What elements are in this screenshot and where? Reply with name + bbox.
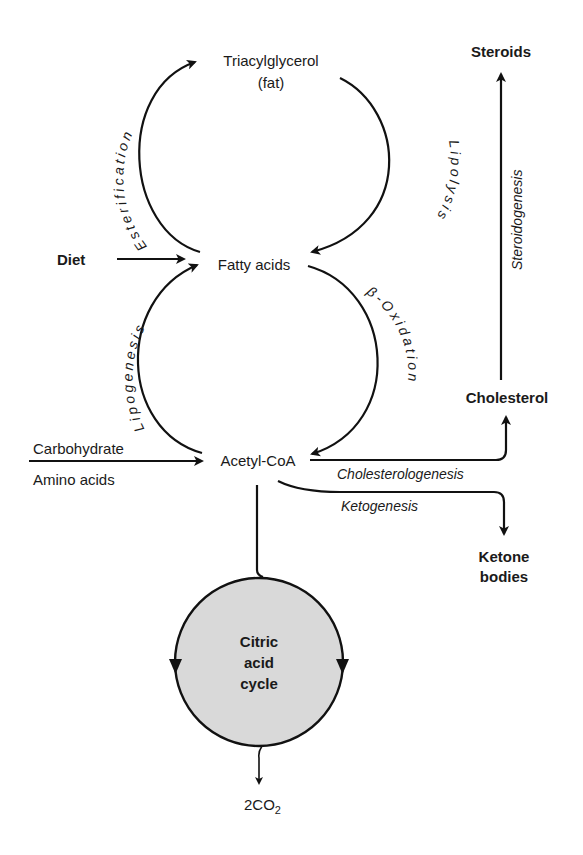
metabolism-diagram: Esterification Lipolysis Lipogenesis β-O… — [0, 0, 583, 855]
amino-acids-label: Amino acids — [33, 471, 115, 488]
ketone-bodies-label: bodies — [480, 568, 528, 585]
co2-arrow — [259, 746, 262, 783]
cycle-label: cycle — [240, 675, 278, 692]
lipolysis-arrow — [312, 78, 389, 252]
cholesterologenesis-label: Cholesterologenesis — [337, 466, 464, 482]
triacylglycerol-label: Triacylglycerol — [223, 52, 318, 69]
co2-subscript: 2 — [275, 804, 281, 816]
cholesterologenesis-arrow — [310, 417, 506, 460]
lipolysis-label: Lipolysis — [433, 139, 464, 225]
lipogenesis-label: Lipogenesis — [119, 320, 149, 435]
esterification-arrow — [139, 62, 200, 252]
beta-oxidation-label: β-Oxidation — [363, 282, 421, 384]
fat-label: (fat) — [258, 74, 285, 91]
diet-label: Diet — [57, 251, 85, 268]
steroids-label: Steroids — [471, 43, 531, 60]
fatty-acids-label: Fatty acids — [218, 256, 291, 273]
ketogenesis-label: Ketogenesis — [341, 498, 418, 514]
acetyl-coa-label: Acetyl-CoA — [220, 452, 295, 469]
acid-label: acid — [244, 654, 274, 671]
carbohydrate-label: Carbohydrate — [33, 440, 124, 457]
citric-label: Citric — [240, 633, 278, 650]
co2-label: 2CO2 — [244, 796, 281, 816]
lipogenesis-arrow — [138, 265, 202, 453]
cholesterol-label: Cholesterol — [466, 389, 549, 406]
steroidogenesis-label: Steroidogenesis — [509, 170, 525, 270]
acetyl-to-cycle-line — [257, 485, 263, 577]
co2-text: 2CO — [244, 796, 275, 813]
ketone-label: Ketone — [479, 548, 530, 565]
